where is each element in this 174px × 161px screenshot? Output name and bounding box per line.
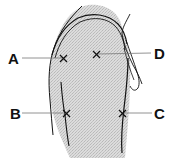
label-d: D bbox=[154, 46, 165, 61]
shaded-muscle-region bbox=[49, 5, 130, 158]
label-c: C bbox=[154, 106, 165, 121]
arm-illustration bbox=[0, 0, 174, 161]
arm-diagram: A B C D bbox=[0, 0, 174, 161]
label-b: B bbox=[10, 106, 21, 121]
label-a: A bbox=[8, 51, 19, 66]
